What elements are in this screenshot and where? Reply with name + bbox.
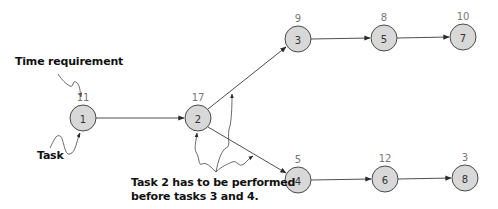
node-id: 7 (460, 33, 466, 44)
node-id: 6 (382, 175, 388, 186)
node-id: 1 (80, 114, 86, 125)
node-1: 1 11 (70, 92, 96, 131)
node-3: 3 9 (285, 13, 311, 52)
node-time: 12 (379, 153, 392, 164)
node-time: 5 (295, 154, 301, 165)
dependency-note-line1: Task 2 has to be performed (131, 176, 295, 190)
node-time: 9 (295, 13, 301, 24)
edge-2-4 (208, 127, 286, 173)
node-7: 7 10 (450, 11, 476, 50)
edge-4-6 (311, 179, 371, 180)
node-time: 10 (457, 11, 470, 22)
edge-2-3 (208, 47, 286, 109)
node-8: 8 3 (452, 152, 478, 191)
dependency-pointer-node2 (195, 133, 216, 172)
node-id: 5 (381, 34, 387, 45)
node-6: 6 12 (372, 153, 398, 192)
edge-3-5 (311, 38, 370, 39)
node-id: 4 (295, 176, 301, 187)
node-time: 3 (462, 152, 468, 163)
node-id: 3 (295, 35, 301, 46)
node-2: 2 17 (185, 92, 211, 131)
time-requirement-label: Time requirement (15, 55, 123, 69)
node-id: 2 (195, 114, 201, 125)
node-time: 17 (192, 92, 205, 103)
edges (96, 37, 451, 180)
dependency-note-line2: before tasks 3 and 4. (131, 190, 258, 204)
node-5: 5 8 (371, 12, 397, 51)
dependency-pointer-edge-2-4 (216, 156, 253, 172)
node-time: 11 (77, 92, 90, 103)
edge-6-8 (398, 178, 451, 179)
task-label: Task (37, 149, 64, 163)
node-id: 8 (462, 174, 468, 185)
edge-5-7 (397, 37, 449, 38)
node-time: 8 (381, 12, 387, 23)
